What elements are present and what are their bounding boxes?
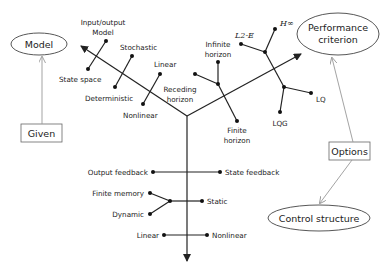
dynamic-label: Dynamic bbox=[112, 210, 144, 219]
options-label: Options bbox=[331, 146, 368, 157]
finite-horizon-label-1: Finite bbox=[227, 126, 247, 135]
linear-control-label: Linear bbox=[137, 231, 159, 240]
io-model-label-2: Model bbox=[92, 28, 114, 37]
io-model-label-1: Input/output bbox=[81, 18, 126, 27]
performance-axis-arrow bbox=[187, 54, 301, 116]
static-label: Static bbox=[207, 197, 228, 206]
options-to-performance-arrow bbox=[332, 58, 353, 142]
nonlinear-control-label: Nonlinear bbox=[212, 231, 247, 240]
stochastic-label: Stochastic bbox=[120, 43, 157, 52]
state-feedback-label: State feedback bbox=[225, 168, 280, 177]
hinf-label: H∞ bbox=[279, 19, 294, 28]
model-linear-nonlinear-bar bbox=[141, 72, 162, 106]
infinite-horizon-label-1: Infinite bbox=[206, 40, 232, 49]
receding-horizon-label-1: Receding bbox=[163, 85, 196, 94]
deterministic-label: Deterministic bbox=[85, 94, 133, 103]
finite-horizon-label-2: horizon bbox=[224, 136, 251, 145]
finite-memory-label: Finite memory bbox=[92, 189, 144, 198]
nonlinear-model-label: Nonlinear bbox=[123, 111, 158, 120]
lq-label: LQ bbox=[316, 95, 326, 104]
state-space-label: State space bbox=[59, 75, 102, 84]
receding-horizon-label-2: horizon bbox=[167, 95, 194, 104]
options-to-control-arrow bbox=[320, 160, 352, 203]
performance-label-2: criterion bbox=[318, 34, 358, 45]
lqg-label: LQG bbox=[272, 119, 287, 128]
model-io-statespace-bar bbox=[86, 39, 108, 71]
diagram-canvas: Model Performance criterion Control stru… bbox=[0, 0, 388, 272]
criteria-cluster bbox=[239, 27, 313, 114]
model-label: Model bbox=[25, 39, 54, 50]
infinite-horizon-label-2: horizon bbox=[205, 50, 232, 59]
linearity-bar bbox=[162, 233, 209, 237]
memory-bar bbox=[148, 191, 204, 216]
performance-label-1: Performance bbox=[308, 22, 368, 33]
output-feedback-label: Output feedback bbox=[88, 168, 149, 177]
linear-model-label: Linear bbox=[154, 60, 176, 69]
control-structure-label: Control structure bbox=[279, 213, 360, 224]
model-stochastic-deterministic-bar bbox=[113, 54, 134, 89]
given-label: Given bbox=[28, 128, 56, 139]
l2e-label: L2-E bbox=[234, 31, 254, 40]
control-design-diagram: Model Performance criterion Control stru… bbox=[0, 0, 388, 272]
